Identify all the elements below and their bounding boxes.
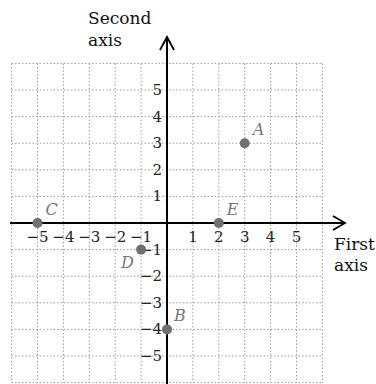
point-label-b: B	[173, 306, 186, 325]
y-tick-label: 4	[152, 108, 162, 126]
axes	[10, 37, 345, 384]
x-axis-title-line1: First	[334, 234, 375, 254]
x-tick-label: 3	[240, 228, 250, 246]
x-tick-label: −3	[78, 228, 100, 246]
x-tick-label: −5	[26, 228, 48, 246]
point-label-a: A	[251, 120, 265, 139]
point-e	[214, 218, 224, 228]
point-label-d: D	[120, 253, 134, 272]
y-tick-label: −4	[140, 320, 162, 338]
y-tick-label: −2	[140, 267, 162, 285]
point-label-e: E	[226, 200, 239, 219]
point-b	[162, 324, 172, 334]
x-axis-title-line2: axis	[334, 255, 368, 275]
coordinate-plane: −5−4−3−2−11234554321−1−2−3−4−5 ABCDE Sec…	[0, 0, 376, 384]
y-tick-label: 5	[152, 81, 162, 99]
point-c	[33, 218, 43, 228]
x-tick-label: 5	[292, 228, 302, 246]
y-tick-label: 1	[152, 187, 162, 205]
y-axis-title-line1: Second	[88, 8, 151, 28]
point-d	[136, 245, 146, 255]
y-tick-label: −3	[140, 294, 162, 312]
x-tick-label: −2	[104, 228, 126, 246]
y-axis-title-line2: axis	[88, 30, 122, 50]
y-tick-label: 2	[152, 161, 162, 179]
point-label-c: C	[46, 200, 58, 219]
y-tick-label: 3	[152, 134, 162, 152]
x-tick-label: 4	[266, 228, 276, 246]
point-a	[240, 138, 250, 148]
x-tick-label: 2	[214, 228, 224, 246]
x-tick-label: 1	[188, 228, 198, 246]
x-tick-label: −4	[52, 228, 74, 246]
y-tick-label: −5	[140, 347, 162, 365]
